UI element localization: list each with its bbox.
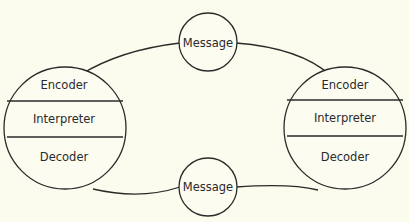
top-message-node: Message [179, 13, 237, 71]
edge-left-to-top-message [80, 43, 180, 75]
right-interpreter-label: Interpreter [314, 111, 376, 125]
left-decoder-label: Decoder [40, 150, 89, 164]
left-node: Encoder Interpreter Decoder [4, 67, 126, 189]
right-node: Encoder Interpreter Decoder [284, 67, 406, 189]
edge-bottom-message-to-right [236, 186, 318, 190]
left-encoder-label: Encoder [40, 78, 87, 92]
bottom-message-node: Message [179, 158, 237, 216]
right-decoder-label: Decoder [321, 150, 370, 164]
left-interpreter-label: Interpreter [33, 112, 95, 126]
edge-left-to-bottom-message [93, 187, 180, 194]
edge-top-message-to-right [236, 43, 330, 75]
communication-diagram: Encoder Interpreter Decoder Encoder Inte… [0, 0, 409, 222]
bottom-message-label: Message [183, 180, 233, 194]
top-message-label: Message [183, 36, 233, 50]
right-encoder-label: Encoder [321, 78, 368, 92]
